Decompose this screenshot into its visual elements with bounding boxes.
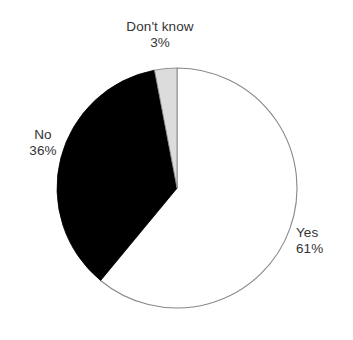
pie-label-dont-know: Don't know 3% [104,19,216,51]
pie-label-yes: Yes 61% [296,225,352,257]
pie-label-yes-value: 61% [296,241,352,257]
pie-label-no: No 36% [8,127,78,159]
pie-label-dont-know-name: Don't know [104,19,216,35]
pie-chart-graphic [0,0,353,340]
pie-label-dont-know-value: 3% [104,35,216,51]
pie-label-no-value: 36% [8,143,78,159]
pie-label-yes-name: Yes [296,225,352,241]
pie-label-no-name: No [8,127,78,143]
pie-chart: Don't know 3% No 36% Yes 61% [0,0,353,340]
